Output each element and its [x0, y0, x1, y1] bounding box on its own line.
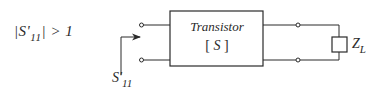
input-port: [140, 23, 171, 62]
load-label: ZL: [352, 36, 366, 52]
block-matrix-label: [ S ]: [172, 38, 262, 54]
input-reflection-label: S'11: [112, 70, 132, 86]
reflection-arrow-icon: [121, 34, 141, 76]
output-terminal-top: [296, 23, 300, 27]
input-terminal-bottom: [140, 58, 144, 62]
input-terminal-top: [140, 23, 144, 27]
output-port: [263, 23, 339, 62]
output-terminal-bottom: [296, 58, 300, 62]
block-title: Transistor: [172, 19, 262, 35]
condition-label: |S'11| > 1: [14, 23, 73, 40]
load-impedance-icon: [332, 37, 347, 52]
